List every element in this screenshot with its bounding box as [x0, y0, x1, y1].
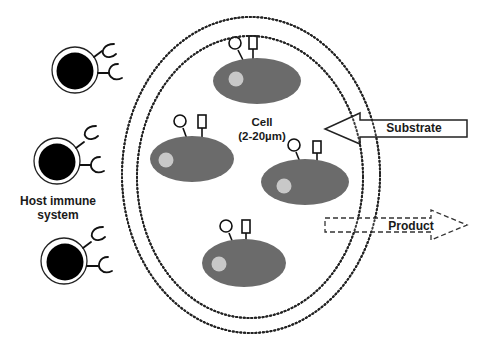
cell-top	[213, 36, 301, 104]
host-immune-system-label: Host immune system	[14, 194, 102, 222]
encapsulation-diagram	[0, 0, 482, 349]
immune-cell-middle	[34, 126, 104, 184]
cell-label-line1: Cell	[224, 115, 300, 129]
substrate-label: Substrate	[360, 121, 468, 135]
host-label-line1: Host immune	[14, 194, 102, 208]
product-label: Product	[376, 219, 446, 233]
immune-cell-top	[52, 44, 122, 93]
cell-label-line2: (2-20µm)	[224, 129, 300, 143]
cell-bottom	[202, 220, 286, 287]
cell-size-label: Cell (2-20µm)	[224, 115, 300, 143]
antibody-icon	[83, 227, 112, 272]
cell-right	[261, 139, 349, 205]
host-label-line2: system	[14, 208, 102, 222]
cell-left	[150, 115, 234, 182]
immune-cell-bottom	[41, 227, 112, 284]
antibody-icon	[76, 126, 104, 172]
